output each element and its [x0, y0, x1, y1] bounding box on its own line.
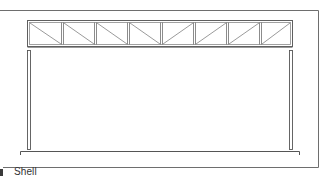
left-column [28, 51, 31, 150]
legend-marker-icon [0, 169, 3, 176]
columns [28, 51, 293, 150]
truss-diagonals [30, 23, 290, 44]
shell-elevation-figure: Shell [0, 0, 327, 180]
figure-caption: Shell [14, 166, 37, 178]
shell-elevation-drawing [0, 0, 327, 180]
roof-truss [28, 21, 293, 48]
outer-frame [0, 11, 319, 168]
floor-line [21, 152, 300, 156]
right-column [290, 51, 293, 150]
truss-verticals [62, 23, 262, 45]
